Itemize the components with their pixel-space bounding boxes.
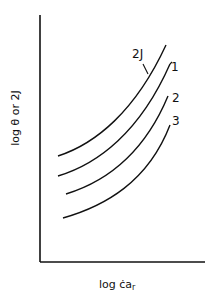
x-axis-title-main: log ċa bbox=[99, 278, 132, 291]
curve-2J bbox=[58, 45, 166, 156]
curve-label-1: 1 bbox=[171, 60, 179, 74]
curve-label-2J: 2J bbox=[132, 47, 143, 61]
curve-label-3: 3 bbox=[172, 114, 180, 128]
x-axis-title-sub: r bbox=[132, 283, 136, 292]
curve-2 bbox=[66, 96, 168, 194]
curve-label-2J-leader bbox=[143, 64, 148, 74]
x-axis-title: log ċar bbox=[99, 278, 136, 292]
curve-label-2: 2 bbox=[172, 91, 180, 105]
chart-canvas: 2J 1 2 3 log θ or 2J log ċar bbox=[0, 0, 216, 299]
y-axis-title: log θ or 2J bbox=[9, 90, 22, 145]
curve-1 bbox=[58, 64, 170, 176]
curve-3 bbox=[63, 125, 170, 218]
